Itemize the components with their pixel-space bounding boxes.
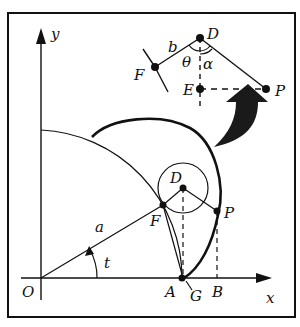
label-F: F: [149, 212, 161, 230]
link-FD: [163, 188, 183, 205]
angle-label: t: [104, 254, 111, 272]
y-axis-label: y: [50, 25, 60, 43]
label-P: P: [223, 204, 235, 222]
radius-label: a: [95, 218, 104, 236]
trajectory-curve: [92, 119, 221, 278]
point-F: [160, 202, 167, 209]
inset-label-D: D: [206, 25, 219, 43]
inset-label-alpha: α: [203, 55, 213, 73]
inset-point-P: [262, 85, 270, 93]
label-A: A: [163, 283, 176, 301]
inset-link-F-lower: [155, 67, 168, 92]
y-axis-arrowhead-icon: [36, 28, 46, 44]
inset-label-F: F: [133, 66, 145, 84]
link-FG: [163, 205, 183, 278]
inset-label-theta: θ: [182, 53, 191, 71]
point-A: [179, 275, 186, 282]
point-P: [214, 208, 221, 215]
inset-point-D: [196, 34, 204, 42]
diagram-canvas: y x O a t D F P A G B D F E P b θ α: [0, 0, 300, 327]
inset-label-b: b: [168, 38, 178, 56]
inset-label-P: P: [274, 82, 286, 100]
inset-point-F: [151, 63, 159, 71]
label-B: B: [211, 283, 223, 301]
inset-label-E: E: [182, 81, 194, 99]
radius-line-a: [41, 205, 163, 278]
axes: [21, 28, 272, 300]
inset-point-E: [196, 85, 204, 93]
label-D: D: [169, 169, 182, 187]
label-G: G: [190, 287, 202, 305]
link-DP: [183, 188, 217, 211]
inset-alpha-arc: [200, 46, 210, 51]
transform-arrow-icon: [214, 84, 268, 147]
x-axis-arrowhead-icon: [256, 273, 272, 283]
x-axis-label: x: [266, 289, 275, 307]
inset-theta-arc: [189, 45, 200, 51]
origin-label: O: [22, 283, 34, 301]
